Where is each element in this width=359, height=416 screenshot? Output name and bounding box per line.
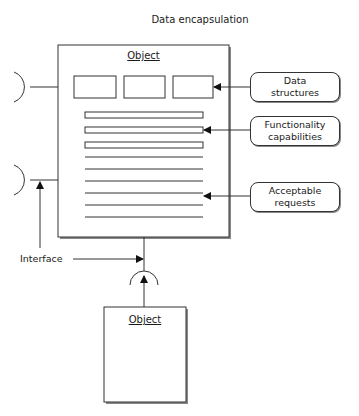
main-object-box xyxy=(58,45,229,237)
main-object-label: Object xyxy=(58,50,229,61)
callout-line: Acceptable xyxy=(269,185,322,197)
callout-line: capabilities xyxy=(268,131,322,143)
callout-acceptable-requests: Acceptable requests xyxy=(250,182,340,212)
interface-label: Interface xyxy=(20,253,63,264)
data-structure-box-2 xyxy=(124,76,165,98)
socket-bottom-icon xyxy=(14,165,24,195)
callout-data-structures: Data structures xyxy=(250,72,340,102)
callout-line: requests xyxy=(274,197,315,209)
function-bar-2 xyxy=(85,127,203,133)
data-structure-box-3 xyxy=(173,76,213,98)
client-object-label: Object xyxy=(104,314,186,325)
function-bar-3 xyxy=(85,142,203,148)
callout-line: structures xyxy=(271,87,319,99)
function-bar-1 xyxy=(85,112,203,118)
callout-line: Data xyxy=(284,75,307,87)
data-structure-box-1 xyxy=(74,76,116,98)
callout-line: Functionality xyxy=(265,119,326,131)
diagram-title: Data encapsulation xyxy=(100,14,300,25)
callout-functionality: Functionality capabilities xyxy=(250,116,340,146)
socket-top-icon xyxy=(14,72,24,102)
